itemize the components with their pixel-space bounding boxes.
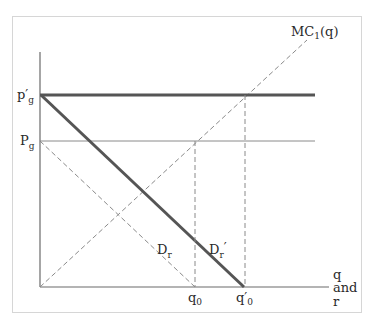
- x-axis-label-and: and: [333, 280, 357, 295]
- mc-curve: [40, 40, 307, 287]
- dr-demand-curve: [40, 141, 195, 287]
- p-prime-g-label: p′g: [17, 87, 34, 105]
- pg-label: Pg: [20, 133, 35, 151]
- q0-prime-label: q′0: [236, 290, 253, 307]
- dr-label: Dr: [157, 242, 172, 260]
- q0-label: q0: [188, 290, 202, 307]
- supply-demand-diagram: MC1(q) p′g Pg Dr Dr′ q0 q′0 q and r: [0, 0, 375, 325]
- mc-curve-label: MC1(q): [291, 24, 338, 41]
- x-axis-label-r: r: [333, 294, 340, 309]
